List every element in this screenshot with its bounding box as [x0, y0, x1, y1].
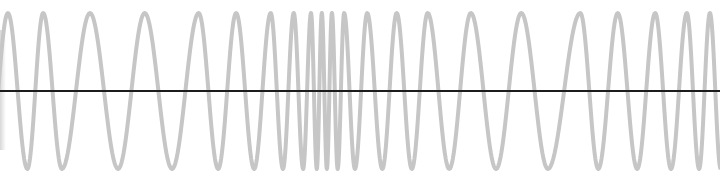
waveform-diagram [0, 0, 720, 186]
